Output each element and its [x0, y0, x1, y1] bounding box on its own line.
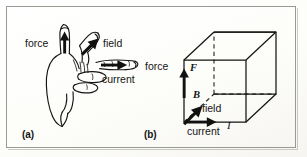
panel-b-tag: (b)	[144, 130, 156, 140]
figure-container: force field current (a)	[0, 0, 307, 157]
panel-b-field-label: field	[202, 103, 221, 114]
panel-b-field-symbol: B	[193, 90, 200, 101]
panel-b-current-label: current	[187, 126, 220, 137]
panel-b-force-symbol: F	[190, 63, 197, 74]
panel-b-force-vector	[179, 69, 189, 98]
panel-b-force-label: force	[145, 61, 168, 72]
panel-b-current-symbol: I	[227, 120, 231, 131]
